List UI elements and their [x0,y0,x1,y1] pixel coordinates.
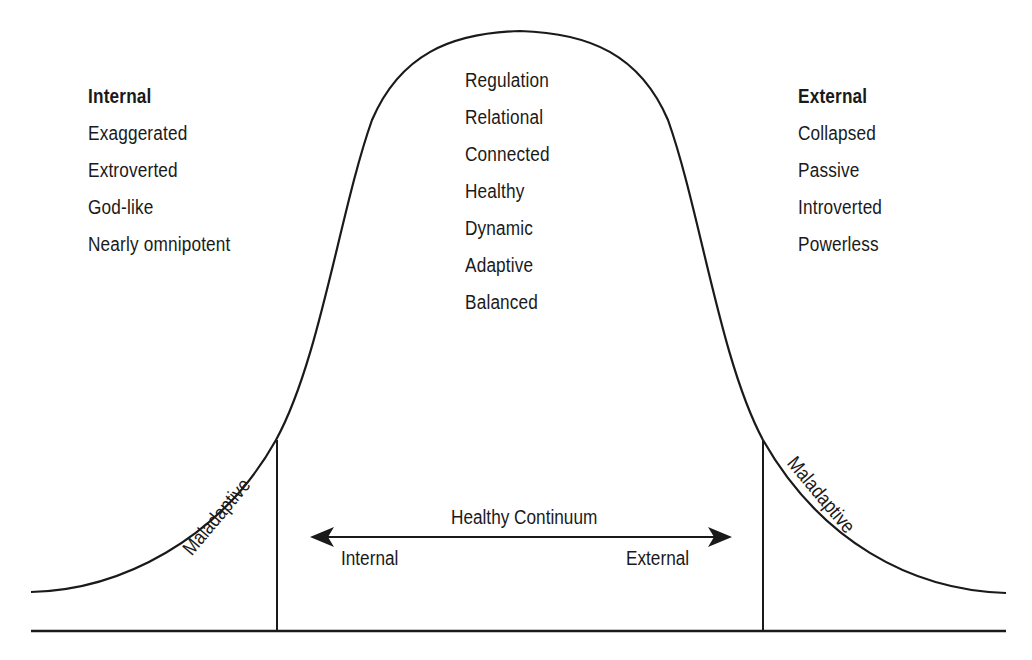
healthy-traits-list: Regulation Relational Connected Healthy … [465,62,550,321]
internal-heading: Internal [88,78,231,115]
list-item: Passive [798,152,882,189]
external-heading: External [798,78,882,115]
list-item: Introverted [798,189,882,226]
list-item: God-like [88,189,231,226]
internal-traits-list: Internal Exaggerated Extroverted God-lik… [88,78,231,263]
external-traits-list: External Collapsed Passive Introverted P… [798,78,882,263]
list-item: Collapsed [798,115,882,152]
list-item: Powerless [798,226,882,263]
list-item: Connected [465,136,550,173]
list-item: Adaptive [465,247,550,284]
list-item: Balanced [465,284,550,321]
list-item: Extroverted [88,152,231,189]
list-item: Regulation [465,62,550,99]
list-item: Exaggerated [88,115,231,152]
list-item: Dynamic [465,210,550,247]
continuum-title: Healthy Continuum [451,506,597,529]
continuum-external-label: External [626,547,689,570]
list-item: Healthy [465,173,550,210]
list-item: Nearly omnipotent [88,226,231,263]
continuum-internal-label: Internal [341,547,398,570]
list-item: Relational [465,99,550,136]
